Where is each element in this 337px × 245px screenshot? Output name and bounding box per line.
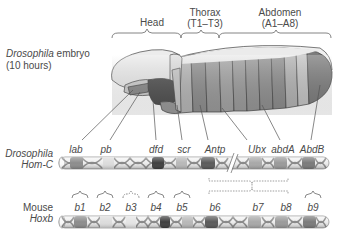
head-brace bbox=[112, 29, 181, 38]
embryo-body bbox=[112, 46, 332, 115]
thorax-brace bbox=[181, 30, 219, 38]
correspondence-bracket bbox=[209, 178, 288, 194]
abdomen-brace bbox=[219, 30, 331, 38]
region-braces bbox=[112, 29, 331, 38]
mouse-chromosome bbox=[59, 216, 329, 228]
diagram-graphics bbox=[0, 0, 337, 245]
mouse-gene-braces bbox=[72, 191, 321, 198]
drosophila-chromosome bbox=[59, 153, 329, 173]
